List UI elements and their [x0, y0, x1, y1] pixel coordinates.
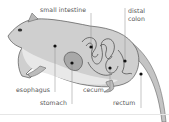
label-cecum: cecum: [83, 87, 104, 93]
label-distal-colon-line2: colon: [128, 16, 145, 22]
bottom-divider: [0, 114, 169, 115]
label-stomach: stomach: [40, 100, 67, 106]
label-rectum: rectum: [113, 100, 135, 106]
label-distal-colon-line1: distal: [128, 8, 145, 14]
label-small-intestine: small intestine: [40, 7, 86, 13]
label-esophagus: esophagus: [16, 87, 50, 93]
anatomy-diagram: small intestine distal colon esophagus s…: [0, 0, 169, 122]
